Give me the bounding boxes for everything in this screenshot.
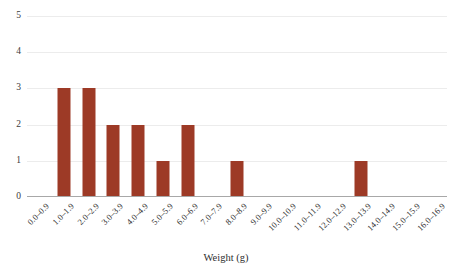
x-axis-title: Weight (g) xyxy=(0,252,452,263)
bar-slot xyxy=(225,16,250,197)
y-axis-tick-label: 0 xyxy=(16,192,21,202)
bar[interactable] xyxy=(156,161,169,197)
bar-slot xyxy=(274,16,299,197)
bar[interactable] xyxy=(82,88,95,197)
histogram-chart: 012345 0.0–0.91.0–1.92.0–2.93.0–3.94.0–4… xyxy=(0,0,452,274)
y-axis-tick-label: 3 xyxy=(16,84,21,94)
bar-slot xyxy=(299,16,324,197)
bar[interactable] xyxy=(132,125,145,197)
x-axis-tick-label: 6.0–6.9 xyxy=(174,201,200,227)
x-axis-tick-label: 8.0–8.9 xyxy=(223,201,249,227)
bar[interactable] xyxy=(230,161,243,197)
bar-slot xyxy=(398,16,423,197)
x-axis-tick-label: 1.0–1.9 xyxy=(50,201,76,227)
x-axis-tick-label: 7.0–7.9 xyxy=(199,201,225,227)
x-axis-tick-label: 4.0–4.9 xyxy=(124,201,150,227)
y-axis-tick-label: 1 xyxy=(16,156,21,166)
bar-slot xyxy=(52,16,77,197)
x-axis-labels: 0.0–0.91.0–1.92.0–2.93.0–3.94.0–4.95.0–5… xyxy=(27,199,447,251)
x-axis-tick-label: 5.0–5.9 xyxy=(149,201,175,227)
bar[interactable] xyxy=(107,125,120,197)
y-axis-tick-label: 5 xyxy=(16,11,21,21)
bar-slot xyxy=(27,16,52,197)
bar-slot xyxy=(348,16,373,197)
bar-slot xyxy=(422,16,447,197)
bar[interactable] xyxy=(58,88,71,197)
bar-slot xyxy=(76,16,101,197)
x-axis-tick-label: 3.0–3.9 xyxy=(100,201,126,227)
x-axis-line xyxy=(27,196,447,197)
bar-slot xyxy=(373,16,398,197)
bar-slot xyxy=(126,16,151,197)
bar-slot xyxy=(101,16,126,197)
bar-slot xyxy=(151,16,176,197)
x-axis-tick-label: 2.0–2.9 xyxy=(75,201,101,227)
bar[interactable] xyxy=(354,161,367,197)
bar-slot xyxy=(249,16,274,197)
bar-slot xyxy=(175,16,200,197)
bar-series xyxy=(27,16,447,197)
y-axis-tick-label: 4 xyxy=(16,47,21,57)
y-axis-labels: 012345 xyxy=(0,0,27,274)
bar-slot xyxy=(323,16,348,197)
x-axis-tick-label: 0.0–0.9 xyxy=(26,201,52,227)
bar[interactable] xyxy=(181,125,194,197)
bar-slot xyxy=(200,16,225,197)
y-axis-tick-label: 2 xyxy=(16,120,21,130)
plot-area xyxy=(27,16,447,197)
